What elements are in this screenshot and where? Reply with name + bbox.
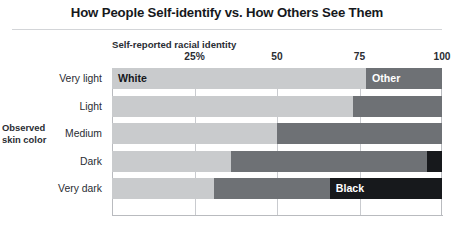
bar-row[interactable] [112,123,442,144]
bar-segment-label-black: Black [336,178,364,199]
x-tick-label-75: 75 [354,51,365,62]
bar-segment-other[interactable] [277,123,442,144]
y-axis-label-very-dark: Very dark [58,178,102,199]
category-label-column: Very lightLightMediumDarkVery dark [0,68,108,215]
bar-segment-white[interactable] [112,68,366,89]
bar-row[interactable]: WhiteOther [112,68,442,89]
chart-page: How People Self-identify vs. How Others … [0,0,454,232]
bar-segment-white[interactable] [112,96,353,117]
x-axis-caption: Self-reported racial identity [112,39,236,50]
bar-segment-other[interactable] [231,151,427,172]
bar-segment-other[interactable] [353,96,442,117]
bar-row[interactable] [112,96,442,117]
y-axis-label-light: Light [79,96,102,117]
bar-segment-white[interactable] [112,178,214,199]
x-tick-label-50: 50 [271,51,282,62]
x-tick-label-100: 100 [434,51,451,62]
bar-row[interactable] [112,151,442,172]
bar-segment-label-white: White [118,68,147,89]
y-axis-label-very-light: Very light [59,68,102,89]
bar-segment-black[interactable] [427,151,442,172]
y-axis-label-dark: Dark [80,151,102,172]
x-tick-label-25: 25% [184,51,204,62]
bar-row[interactable]: Black [112,178,442,199]
plot-area: 25%5075100WhiteOtherBlack [112,68,442,215]
bar-segment-white[interactable] [112,151,231,172]
y-axis-label-medium: Medium [65,123,102,144]
x-axis-baseline [112,215,443,216]
bar-segment-label-other: Other [372,68,400,89]
title-divider [12,29,442,30]
page-title: How People Self-identify vs. How Others … [0,5,454,20]
bar-segment-white[interactable] [112,123,277,144]
bar-segment-other[interactable] [214,178,330,199]
